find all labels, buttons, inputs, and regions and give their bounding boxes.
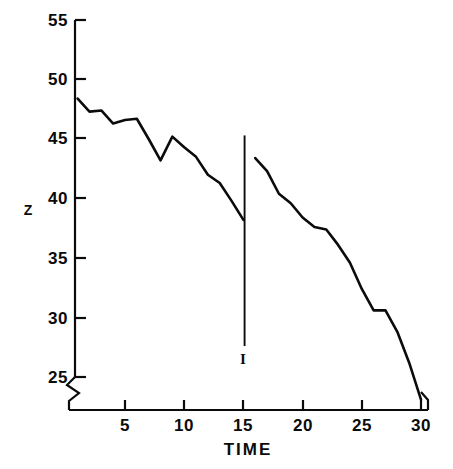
x-tick-label-15: 15 (233, 416, 253, 435)
line-chart-canvas: 55 50 45 40 35 30 25 Z 5 10 15 20 25 30 … (0, 0, 453, 469)
y-tick-label-55: 55 (48, 11, 68, 30)
data-line-segment-1 (78, 99, 244, 220)
x-axis-title: TIME (224, 440, 273, 459)
x-tick-label-10: 10 (174, 416, 194, 435)
y-tick-label-25: 25 (48, 368, 68, 387)
x-tick-label-30: 30 (411, 416, 431, 435)
x-tick-label-5: 5 (120, 416, 130, 435)
y-axis-break-symbol (67, 377, 79, 410)
x-tick-label-25: 25 (352, 416, 372, 435)
y-tick-marks (75, 20, 86, 377)
x-tick-label-20: 20 (293, 416, 313, 435)
x-tick-marks (125, 400, 421, 410)
y-tick-label-30: 30 (48, 309, 68, 328)
y-tick-label-45: 45 (48, 129, 68, 148)
chart-figure: 55 50 45 40 35 30 25 Z 5 10 15 20 25 30 … (0, 0, 453, 469)
y-axis-title: Z (24, 202, 33, 218)
y-tick-label-40: 40 (48, 189, 68, 208)
error-bar-label: I (240, 351, 246, 367)
y-tick-label-50: 50 (48, 70, 68, 89)
y-tick-label-35: 35 (48, 249, 68, 268)
data-line-segment-2 (255, 158, 421, 400)
